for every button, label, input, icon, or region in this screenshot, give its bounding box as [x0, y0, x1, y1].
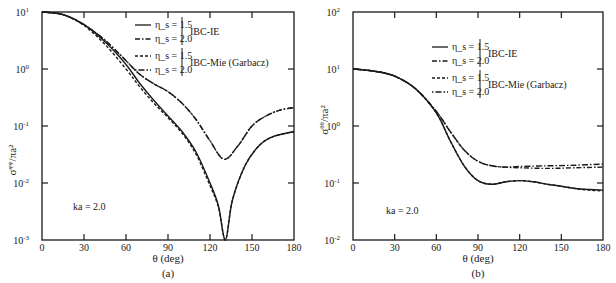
y-tick-label: 10-1 [324, 177, 340, 189]
y-tick-label: 101 [327, 63, 341, 75]
legend-group-label: IBC-Mie (Garbacz) [488, 79, 567, 91]
x-tick-label: 180 [287, 242, 302, 253]
legend-entry-label: η_s = 1.5 [155, 19, 192, 30]
legend-entry-label: η_s = 1.5 [452, 41, 489, 52]
x-tick-label: 30 [79, 242, 89, 253]
x-tick-label: 60 [431, 242, 441, 253]
legend-entry-label: η_s = 1.5 [155, 50, 192, 61]
legend-entry-label: η_s = 2.0 [155, 64, 192, 75]
x-axis-a: 0306090120150180 [40, 12, 302, 253]
legend-group-label: IBC-Mie (Garbacz) [190, 57, 269, 69]
panel-label-b: (b) [472, 267, 485, 280]
ylabel-tail-b: /πa² [318, 105, 330, 122]
panel-label-a: (a) [162, 267, 175, 280]
y-tick-label: 100 [16, 63, 30, 75]
x-tick-label: 150 [554, 242, 569, 253]
y-tick-label: 101 [16, 6, 30, 18]
annotation-ka-a: ka = 2.0 [73, 201, 106, 212]
legend-entry-label: η_s = 2.0 [452, 55, 489, 66]
x-tick-label: 180 [596, 242, 611, 253]
x-tick-label: 150 [245, 242, 260, 253]
y-tick-label: 102 [327, 6, 341, 18]
y-tick-label: 10-1 [13, 120, 29, 132]
legend-group-label: IBC-IE [190, 26, 219, 37]
x-tick-label: 60 [121, 242, 131, 253]
legend-group-label: IBC-IE [488, 48, 517, 59]
legend-entry-label: η_s = 1.5 [452, 72, 489, 83]
x-tick-label: 120 [512, 242, 527, 253]
figure: 0306090120150180 10110010-110-210-3 θ (d… [0, 0, 616, 283]
legend-entry-label: η_s = 2.0 [452, 86, 489, 97]
annotation-ka-b: ka = 2.0 [386, 205, 419, 216]
legend-b: η_s = 1.5η_s = 2.0IBC-IEη_s = 1.5η_s = 2… [432, 39, 567, 98]
y-axis-title-a: σφφ/πa² [6, 144, 18, 176]
y-tick-label: 10-2 [13, 177, 29, 189]
legend-a: η_s = 1.5η_s = 2.0IBC-IEη_s = 1.5η_s = 2… [135, 17, 269, 76]
x-axis-title-b: θ (deg) [462, 252, 494, 265]
ylabel-tail-a: /πa² [6, 144, 18, 161]
x-tick-label: 0 [351, 242, 356, 253]
y-tick-label: 10-2 [324, 234, 340, 246]
legend-entry-label: η_s = 2.0 [155, 33, 192, 44]
chart-a: 0306090120150180 10110010-110-210-3 θ (d… [6, 6, 302, 280]
chart-b: 0306090120150180 10210110010-110-2 θ (de… [318, 6, 611, 280]
y-axis-title-b: σθθ/πa² [318, 105, 330, 135]
x-tick-label: 0 [40, 242, 45, 253]
x-axis-title-a: θ (deg) [152, 252, 184, 265]
x-tick-label: 120 [203, 242, 218, 253]
ylabel-sup-a: φφ [6, 161, 14, 169]
x-tick-label: 30 [390, 242, 400, 253]
y-tick-label: 10-3 [13, 234, 29, 246]
